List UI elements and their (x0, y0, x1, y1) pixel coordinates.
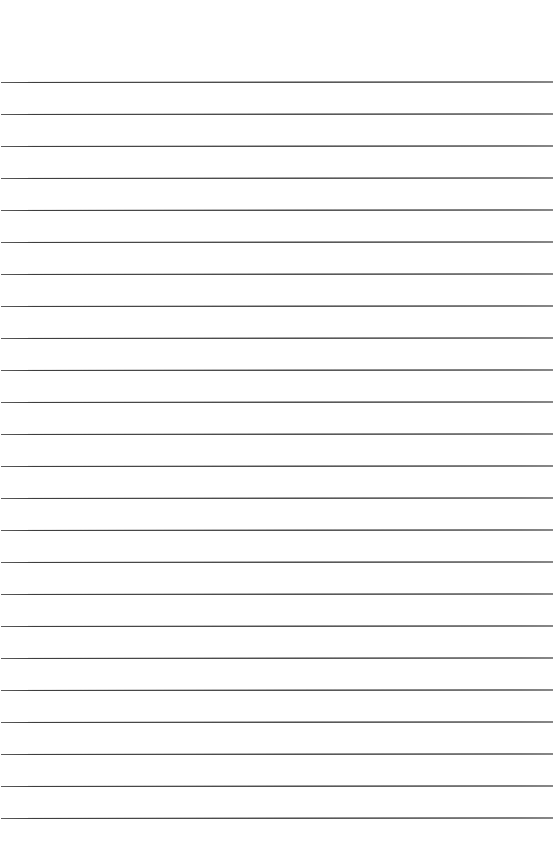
writing-row (0, 307, 555, 338)
writing-row (0, 691, 555, 722)
writing-row (0, 435, 555, 466)
writing-row (0, 595, 555, 626)
writing-row (0, 627, 555, 658)
writing-row (0, 115, 555, 146)
writing-row (0, 403, 555, 434)
writing-row (0, 563, 555, 594)
writing-row (0, 755, 555, 786)
writing-row (0, 83, 555, 114)
writing-row (0, 275, 555, 306)
rule-line (1, 817, 553, 819)
writing-row (0, 499, 555, 530)
writing-row (0, 147, 555, 178)
writing-row (0, 467, 555, 498)
bottom-margin-area (0, 821, 555, 844)
writing-row (0, 371, 555, 402)
writing-row (0, 211, 555, 242)
writing-row (0, 339, 555, 370)
writing-row (0, 723, 555, 754)
writing-row (0, 179, 555, 210)
ruled-lines-container (0, 0, 555, 844)
writing-row (0, 531, 555, 562)
writing-row (0, 243, 555, 274)
writing-row (0, 787, 555, 818)
writing-row (0, 51, 555, 82)
lined-paper-sheet (0, 0, 555, 844)
writing-row (0, 659, 555, 690)
